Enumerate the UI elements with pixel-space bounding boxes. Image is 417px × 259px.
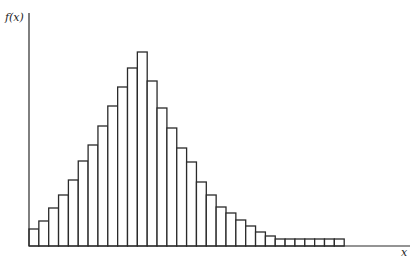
histogram-bar [137,52,147,246]
histogram-bar [265,236,275,246]
histogram-bar [118,87,128,246]
histogram-bar [236,220,246,246]
histogram-bar [108,106,118,246]
histogram-bar [285,239,295,246]
histogram-bar [325,239,335,246]
histogram-bar [295,239,305,246]
histogram-bar [147,81,157,246]
histogram-bar [256,232,266,246]
histogram-bar [246,226,256,246]
histogram-bar [275,239,285,246]
histogram-bar [157,108,167,246]
histogram-bar [49,208,59,246]
histogram-bar [196,182,206,246]
histogram-bar [78,161,88,246]
histogram-bar [98,126,108,246]
histogram-bar [305,239,315,246]
histogram-bar [59,195,69,246]
histogram-bar [177,148,187,246]
histogram-bar [88,145,98,246]
histogram-bar [167,128,177,246]
histogram-bar [315,239,325,246]
histogram-bar [206,195,216,246]
histogram-bar [29,229,39,246]
histogram-bar [128,68,138,246]
y-axis-label: f(x) [4,11,24,24]
histogram-bars [29,52,344,246]
histogram-bar [39,221,49,246]
histogram-bar [216,207,226,246]
histogram-bar [187,162,197,246]
histogram-bar [226,213,236,246]
x-axis-label: x [401,246,408,259]
histogram-bar [68,180,78,246]
histogram-bar [334,239,344,246]
histogram-chart: f(x) x [0,0,417,259]
